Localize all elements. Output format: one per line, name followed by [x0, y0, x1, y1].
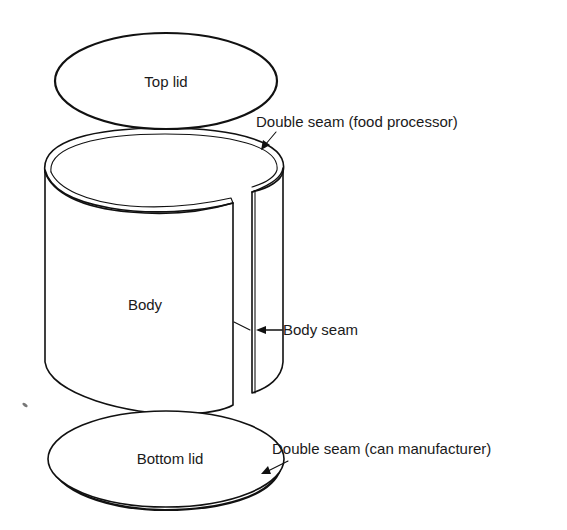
body-label: Body — [128, 296, 163, 313]
body-rim-inner — [51, 134, 277, 187]
top-seam-label: Double seam (food processor) — [256, 113, 458, 130]
scan-speck — [22, 402, 29, 408]
bottom-seam-label: Double seam (can manufacturer) — [272, 440, 491, 457]
bottom-lid-label: Bottom lid — [137, 450, 204, 467]
top-lid: Top lid — [55, 33, 277, 129]
callout-top-seam: Double seam (food processor) — [256, 113, 458, 150]
can-body — [45, 128, 284, 414]
body-right-flap — [252, 168, 283, 393]
body-seam-inner-line — [234, 322, 250, 330]
callout-bottom-seam: Double seam (can manufacturer) — [261, 440, 491, 474]
bottom-lid: Bottom lid — [48, 411, 284, 510]
body-rim-outer — [45, 128, 284, 192]
top-lid-label: Top lid — [144, 73, 187, 90]
can-assembly-diagram: Top lid Bottom lid Body Double seam (foo… — [0, 0, 567, 530]
body-seam-label: Body seam — [283, 321, 358, 338]
